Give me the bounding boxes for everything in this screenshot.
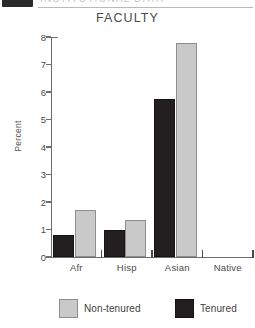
y-axis-title: Percent — [13, 106, 23, 166]
y-tick-mark — [46, 229, 51, 230]
x-axis-label-afr: Afr — [51, 262, 102, 273]
legend-item-non-tenured[interactable]: Non-tenured — [59, 299, 141, 318]
y-tick-mark — [46, 256, 51, 257]
bar-afr-tenured — [53, 235, 74, 257]
chart-legend: Non-tenured Tenured — [0, 298, 255, 322]
legend-swatch-non-tenured — [59, 299, 78, 318]
y-tick-label: 8 — [32, 33, 46, 42]
bar-asian-tenured — [154, 99, 175, 257]
y-tick-mark — [46, 91, 51, 92]
x-axis-label-native: Native — [203, 262, 254, 273]
bar-hisp-non-tenured — [125, 220, 146, 257]
y-tick-label: 5 — [32, 115, 46, 124]
y-tick-mark — [46, 201, 51, 202]
x-axis-label-hisp: Hisp — [102, 262, 153, 273]
y-tick-mark — [46, 146, 51, 147]
legend-label-tenured: Tenured — [200, 303, 237, 314]
legend-swatch-tenured — [175, 299, 194, 318]
y-tick-mark — [46, 36, 51, 37]
y-tick-mark — [46, 174, 51, 175]
x-axis-label-asian: Asian — [152, 262, 203, 273]
x-tick-mark — [151, 250, 153, 258]
y-axis-line — [51, 37, 52, 258]
y-tick-label: 6 — [32, 88, 46, 97]
y-axis-top-cap — [51, 37, 58, 38]
y-tick-label: 1 — [32, 225, 46, 234]
y-tick-label: 7 — [32, 60, 46, 69]
y-tick-label: 2 — [32, 198, 46, 207]
bar-afr-non-tenured — [75, 210, 96, 257]
y-tick-mark — [46, 64, 51, 65]
legend-label-non-tenured: Non-tenured — [84, 303, 141, 314]
y-tick-mark — [46, 119, 51, 120]
bar-hisp-tenured — [104, 230, 125, 258]
bar-chart: Percent 012345678 AfrHispAsianNative — [0, 0, 255, 328]
x-tick-mark — [202, 250, 204, 258]
y-tick-label: 4 — [32, 143, 46, 152]
x-tick-mark — [101, 250, 103, 258]
bar-asian-non-tenured — [176, 43, 197, 258]
legend-item-tenured[interactable]: Tenured — [175, 299, 237, 318]
x-tick-mark — [252, 250, 254, 258]
y-tick-label: 3 — [32, 170, 46, 179]
y-tick-label: 0 — [32, 253, 46, 262]
